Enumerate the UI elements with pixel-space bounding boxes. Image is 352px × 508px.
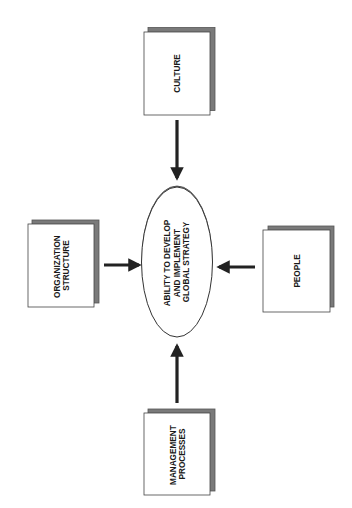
management-processes-label: MANAGEMENT PROCESSES xyxy=(169,423,187,485)
people-box: PEOPLE xyxy=(263,226,334,312)
center-label: ABILITY TO DEVELOP AND IMPLEMENT GLOBAL … xyxy=(163,218,191,307)
organization-structure-label: ORGANIZATION STRUCTURE xyxy=(53,233,71,298)
organization-structure-box: ORGANIZATION STRUCTURE xyxy=(28,220,99,307)
culture-label: CULTURE xyxy=(173,54,182,93)
culture-box: CULTURE xyxy=(144,28,215,116)
diagram-canvas: CULTURE ORGANIZATION STRUCTURE PEOPLE MA… xyxy=(0,0,352,508)
center-ellipse: ABILITY TO DEVELOP AND IMPLEMENT GLOBAL … xyxy=(142,186,213,337)
people-label: PEOPLE xyxy=(293,254,302,288)
management-processes-box: MANAGEMENT PROCESSES xyxy=(144,409,215,495)
